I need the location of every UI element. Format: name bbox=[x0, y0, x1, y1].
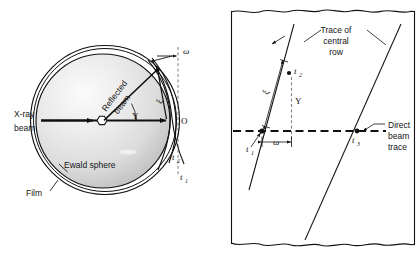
direct-beam-label-line3: trace bbox=[388, 142, 407, 152]
omega-label-right: ω bbox=[273, 137, 279, 147]
trace-label-line1: Trace of bbox=[321, 25, 353, 35]
ewald-sphere-label: Ewald sphere bbox=[64, 160, 116, 170]
film-label: Film bbox=[26, 188, 42, 198]
sphere-centre-marker bbox=[97, 116, 107, 124]
sphere-highlight bbox=[119, 150, 137, 155]
direct-beam-label-line2: beam bbox=[388, 131, 409, 141]
xray-beam-label-line1: X-ray bbox=[14, 109, 35, 119]
upsilon-label-right: Υ bbox=[295, 96, 302, 106]
trace-label-line3: row bbox=[329, 47, 344, 57]
spot-t3 bbox=[355, 129, 360, 134]
xray-beam-label-line2: beam bbox=[14, 123, 35, 133]
origin-label: O bbox=[181, 116, 188, 126]
omega-label-left: ω bbox=[183, 46, 189, 56]
svg-text:3: 3 bbox=[356, 141, 360, 147]
upsilon-label-left: Υ bbox=[132, 111, 139, 121]
trace-label-line2: central bbox=[323, 36, 349, 46]
svg-text:2: 2 bbox=[299, 72, 302, 78]
direct-beam-label-line1: Direct bbox=[388, 120, 411, 130]
svg-text:1: 1 bbox=[185, 178, 188, 184]
xray-diffraction-figure: X-ray beam Reflected beam Ewald sphere F… bbox=[0, 0, 418, 257]
svg-text:2: 2 bbox=[177, 158, 180, 164]
spot-t2 bbox=[287, 71, 291, 75]
svg-text:ω: ω bbox=[183, 46, 189, 56]
svg-text:1: 1 bbox=[251, 150, 254, 156]
